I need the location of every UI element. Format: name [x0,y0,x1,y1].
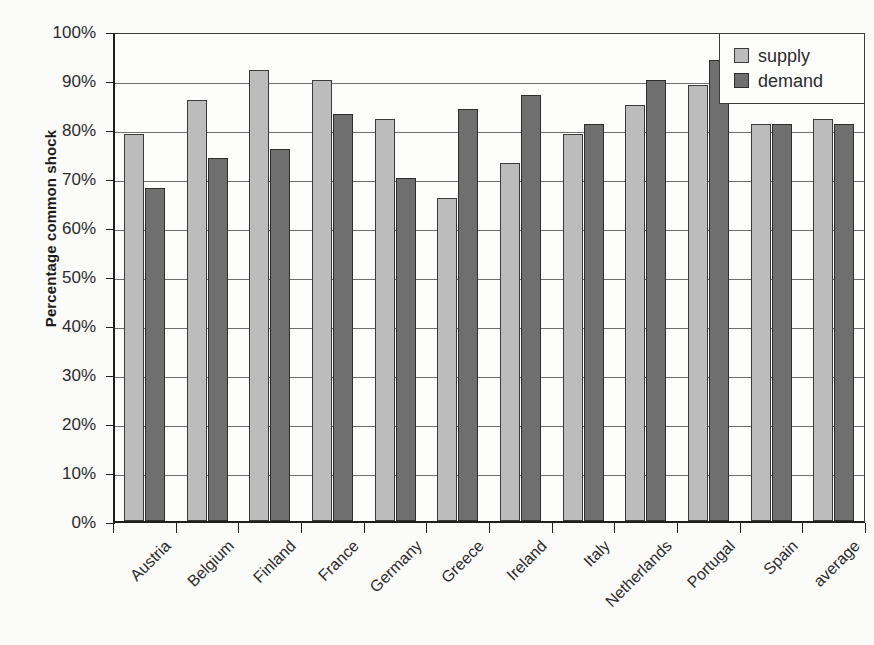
bar-supply-average [813,119,833,521]
bar-demand-finland [270,149,290,521]
y-tick-mark [106,425,115,426]
bar-supply-finland [249,70,269,521]
y-tick-mark [106,474,115,475]
bar-demand-belgium [208,158,228,521]
legend-label-supply: supply [758,47,810,65]
y-tick-label: 10% [38,464,96,484]
y-tick-label: 70% [38,170,96,190]
legend-label-demand: demand [758,72,823,90]
bar-demand-ireland [521,95,541,521]
bar-supply-france [312,80,332,521]
plot-area [113,33,865,523]
legend-swatch-supply-icon [734,48,749,63]
legend-item-demand: demand [734,68,854,93]
y-tick-label: 80% [38,121,96,141]
bar-supply-italy [563,134,583,521]
y-tick-mark [106,376,115,377]
bar-demand-portugal [709,60,729,521]
y-tick-mark [106,180,115,181]
y-tick-mark [106,82,115,83]
x-tick-mark [113,523,114,533]
y-tick-label: 60% [38,219,96,239]
y-tick-label: 90% [38,72,96,92]
bar-demand-france [333,114,353,521]
y-tick-mark [106,33,115,34]
legend-item-supply: supply [734,43,854,68]
y-tick-mark [106,327,115,328]
y-tick-label: 30% [38,366,96,386]
bar-supply-spain [751,124,771,521]
bar-supply-germany [375,119,395,521]
bar-demand-spain [772,124,792,521]
bar-supply-portugal [688,85,708,521]
bar-demand-average [834,124,854,521]
y-tick-label: 0% [38,513,96,533]
bar-supply-greece [437,198,457,521]
bar-demand-austria [145,188,165,521]
bar-demand-greece [458,109,478,521]
y-tick-label: 40% [38,317,96,337]
y-tick-label: 20% [38,415,96,435]
y-tick-mark [106,229,115,230]
y-tick-mark [106,131,115,132]
bar-demand-italy [584,124,604,521]
chart-legend: supply demand [719,33,865,104]
bar-supply-netherlands [625,105,645,522]
bar-demand-netherlands [646,80,666,521]
y-tick-label: 100% [38,23,96,43]
y-axis-tick-labels: 100%90%80%70%60%50%40%30%20%10%0% [38,0,96,645]
bar-supply-ireland [500,163,520,521]
y-tick-label: 50% [38,268,96,288]
legend-swatch-demand-icon [734,73,749,88]
bar-supply-belgium [187,100,207,521]
bar-demand-germany [396,178,416,521]
y-tick-mark [106,278,115,279]
bar-chart: Percentage common shock 100%90%80%70%60%… [0,0,874,645]
bar-supply-austria [124,134,144,521]
